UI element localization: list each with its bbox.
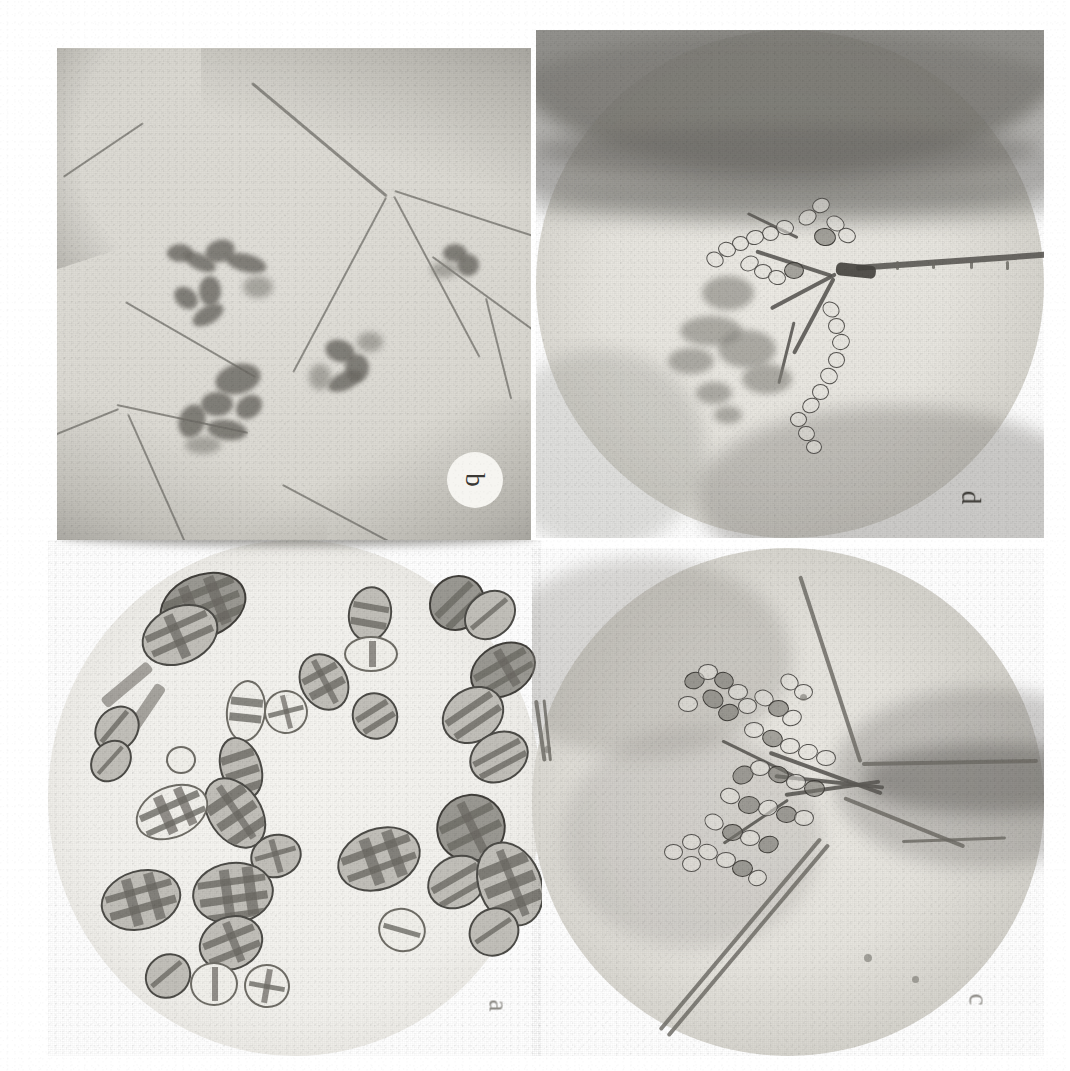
out-of-focus-spore-mass (742, 364, 792, 394)
fungal-colony-tuft (185, 436, 221, 454)
hypha-septum (932, 260, 935, 269)
conidium (828, 318, 845, 334)
conidium (804, 780, 825, 797)
out-of-focus-spore-mass (714, 406, 742, 424)
fungal-colony-tuft (431, 262, 457, 278)
conidium-muriform (166, 746, 196, 774)
hypha-septum (970, 260, 973, 269)
conidium (794, 810, 814, 826)
out-of-focus-tissue-band (536, 180, 1044, 226)
out-of-focus-spore-mass (696, 382, 732, 404)
conidium-muriform (344, 636, 398, 672)
hypha-septum (1006, 261, 1009, 270)
fungal-colony-tuft (357, 332, 383, 352)
conidium (828, 352, 845, 368)
conidium (762, 226, 779, 241)
conidium (664, 844, 683, 860)
panel-d: d (536, 30, 1044, 538)
fungal-colony-tuft (201, 392, 233, 416)
conidium-muriform (190, 962, 238, 1006)
panel-label-b: b (447, 452, 503, 508)
panel-label-d: d (957, 491, 984, 505)
out-of-focus-spore-mass (718, 330, 776, 368)
fungal-colony-tuft (309, 364, 331, 390)
conidium (678, 696, 698, 712)
out-of-focus-spore-mass (702, 276, 754, 310)
conidium (740, 830, 760, 846)
conidium (738, 796, 760, 814)
conidium (784, 262, 804, 279)
figure-plate: b (0, 0, 1070, 1071)
panel-a: a (48, 540, 542, 1056)
panel-label-c: c (964, 994, 991, 1006)
panel-label-a: a (484, 1000, 511, 1012)
panel-b: b (57, 48, 531, 540)
conidium (744, 722, 764, 738)
fungal-colony-tuft (199, 276, 221, 306)
conidium (806, 440, 822, 454)
conidium (816, 750, 836, 766)
debris-speck (864, 954, 872, 962)
hypha-septum (896, 261, 899, 270)
debris-speck (912, 976, 919, 983)
fungal-colony-tuft (243, 276, 273, 298)
conidium (786, 774, 806, 790)
debris-speck (544, 746, 551, 753)
conidium (682, 856, 701, 872)
panel-c: c (532, 548, 1044, 1056)
scan-edge-band (58, 540, 538, 546)
debris-speck (800, 694, 807, 701)
out-of-focus-corner (201, 48, 531, 228)
out-of-focus-spore-mass (668, 348, 714, 374)
